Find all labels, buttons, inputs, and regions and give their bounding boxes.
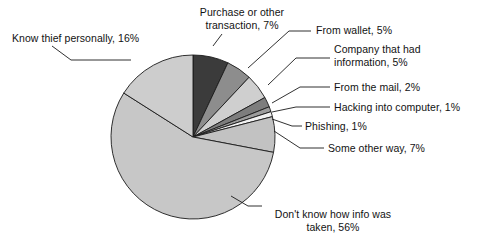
- slice-label-purchase-line2: transaction, 7%: [205, 19, 278, 31]
- slice-label-hacking-into-computer: Hacking into computer, 1%: [334, 101, 460, 114]
- slice-label-dont-know-line1: Don't know how info was: [275, 208, 391, 220]
- slice-label-some-other-way: Some other way, 7%: [328, 142, 425, 155]
- slice-label-phishing: Phishing, 1%: [305, 120, 367, 133]
- slice-label-dont-know-line2: taken, 56%: [306, 221, 359, 233]
- slice-label-from-wallet: From wallet, 5%: [316, 24, 392, 37]
- leader-line-mail: [272, 87, 330, 103]
- slice-label-purchase-or-other-transaction: Purchase or othertransaction, 7%: [188, 6, 296, 31]
- slice-label-company-line2: information, 5%: [334, 56, 408, 68]
- slice-label-company-line1: Company that had: [334, 43, 421, 55]
- slice-label-dont-know-how-info-was-taken: Don't know how info wastaken, 56%: [258, 208, 408, 233]
- leader-line-hacking: [272, 107, 330, 112]
- leader-line-know-thief: [52, 46, 131, 60]
- slice-label-company-that-had-information: Company that hadinformation, 5%: [334, 43, 421, 68]
- slice-label-from-the-mail: From the mail, 2%: [334, 81, 420, 94]
- pie-chart-figure: Purchase or other transaction, 7%From wa…: [0, 0, 485, 247]
- leader-line-purchase: [213, 34, 222, 46]
- pie-slices-group: Purchase or other transaction, 7%From wa…: [111, 55, 275, 219]
- slice-label-know-thief-personally: Know thief personally, 16%: [12, 32, 139, 45]
- slice-label-purchase-line1: Purchase or other: [200, 6, 284, 18]
- leader-line-wallet: [248, 31, 311, 68]
- leader-line-other-way: [274, 131, 324, 148]
- leader-line-phishing: [272, 119, 302, 126]
- leader-line-company: [268, 58, 330, 85]
